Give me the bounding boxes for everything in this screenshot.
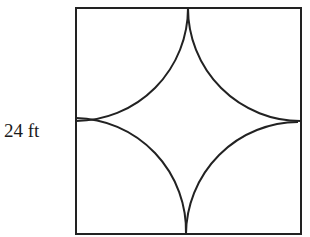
arc-top-right [188, 8, 301, 121]
quarter-circle-arcs [76, 8, 301, 234]
arc-top-left [76, 8, 188, 121]
arc-bottom-left [76, 118, 186, 234]
square [76, 8, 301, 234]
side-length-label: 24 ft [4, 121, 39, 140]
arc-bottom-right [186, 122, 298, 234]
diagram [0, 0, 310, 237]
